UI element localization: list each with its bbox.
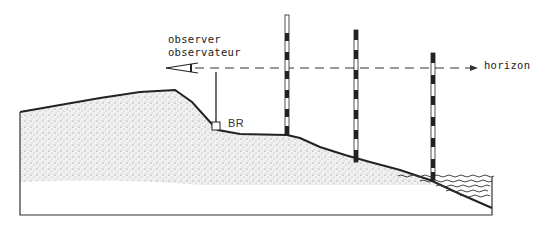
terrain-profile (20, 90, 492, 215)
observer-eye-icon (166, 63, 198, 73)
benchmark-box (212, 122, 220, 130)
horizon-arrow-icon (470, 65, 478, 71)
survey-diagram (0, 0, 545, 230)
horizon-label: horizon (484, 59, 530, 71)
observer-label-en: observer (168, 33, 221, 45)
leveling-rod-1 (285, 15, 289, 135)
benchmark-label: BR (228, 117, 244, 129)
observer-label-fr: observateur (168, 46, 241, 58)
leveling-rod-2 (354, 30, 358, 162)
leveling-rod-3 (431, 53, 435, 180)
